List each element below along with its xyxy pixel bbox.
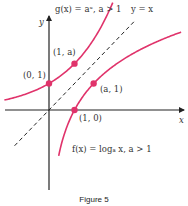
- point-1-0-label: (1, 0): [79, 113, 102, 123]
- point-1-a-label: (1, a): [53, 47, 76, 57]
- graph: y x g(x) = aˣ, a > 1 y = x (0, 1) (1, a)…: [0, 0, 188, 206]
- x-axis-label: x: [179, 115, 184, 125]
- point-a-1: [90, 80, 96, 86]
- log-function-label: f(x) = logₐ x, a > 1: [72, 144, 152, 154]
- point-1-a: [71, 60, 77, 66]
- point-a-1-label: (a, 1): [100, 84, 123, 94]
- point-0-1-label: (0, 1): [23, 70, 46, 80]
- y-axis-label: y: [38, 17, 44, 27]
- identity-line-label: y = x: [130, 4, 153, 14]
- point-0-1: [46, 80, 52, 86]
- identity-line-y-equals-x: [15, 20, 136, 146]
- exp-function-label: g(x) = aˣ, a > 1: [55, 4, 121, 14]
- point-1-0: [71, 107, 77, 113]
- figure-caption: Figure 5: [79, 195, 109, 204]
